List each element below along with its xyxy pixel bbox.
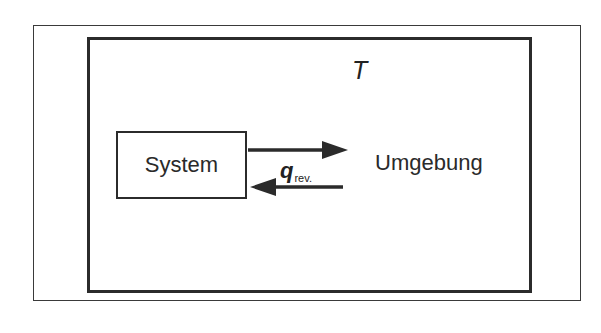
surroundings-label: Umgebung	[375, 152, 483, 174]
system-box: System	[116, 131, 247, 199]
heat-subscript: rev.	[294, 172, 312, 184]
reversible-heat-label: qrev.	[280, 160, 312, 184]
system-label: System	[145, 154, 218, 176]
heat-symbol: q	[280, 158, 293, 183]
temperature-label: T	[352, 58, 367, 83]
